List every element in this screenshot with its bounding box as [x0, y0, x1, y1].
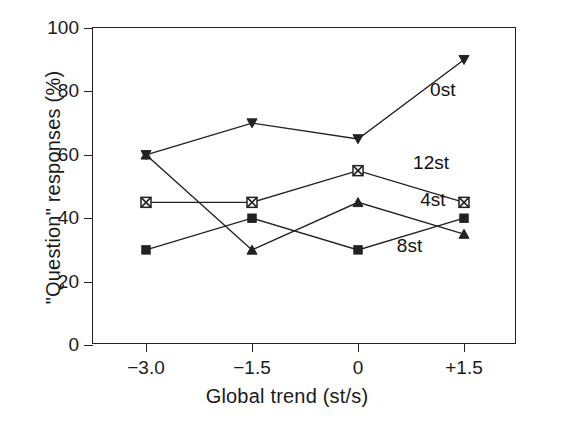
y-tick-mark	[84, 91, 93, 92]
plot-area: 020406080100 −3.0−1.50+1.5 0st12st4st8st	[92, 27, 516, 344]
x-tick-label: +1.5	[445, 357, 483, 379]
marker-square-crossed	[247, 197, 257, 207]
x-tick-label: −1.5	[233, 357, 271, 379]
y-tick-mark	[84, 28, 93, 29]
marker-square-filled	[248, 214, 256, 222]
y-tick-label: 40	[58, 207, 79, 229]
series-label-12st: 12st	[413, 152, 449, 174]
x-tick-label: 0	[353, 357, 364, 379]
marker-square-crossed	[141, 197, 151, 207]
y-tick-label: 60	[58, 144, 79, 166]
marker-square-crossed	[459, 197, 469, 207]
y-tick-mark	[84, 155, 93, 156]
series-label-8st: 8st	[397, 235, 422, 257]
marker-triangle-up-filled	[459, 229, 469, 238]
y-tick-label: 20	[58, 271, 79, 293]
series-0st	[141, 55, 469, 159]
x-axis-title: Global trend (st/s)	[0, 385, 574, 408]
marker-square-filled	[142, 246, 150, 254]
series-layer	[93, 28, 517, 345]
series-line	[146, 60, 464, 155]
y-tick-mark	[84, 282, 93, 283]
y-tick-label: 80	[58, 80, 79, 102]
marker-square-crossed	[353, 166, 363, 176]
series-label-4st: 4st	[420, 189, 445, 211]
marker-triangle-up-filled	[353, 198, 363, 207]
marker-square-filled	[460, 214, 468, 222]
marker-square-filled	[354, 246, 362, 254]
marker-triangle-down-filled	[353, 135, 363, 144]
series-label-0st: 0st	[430, 79, 455, 101]
y-tick-mark	[84, 218, 93, 219]
y-tick-mark	[84, 345, 93, 346]
y-tick-label: 100	[47, 17, 79, 39]
figure-canvas: "Question" responses (%) 020406080100 −3…	[0, 0, 574, 426]
y-axis-title: "Question" responses (%)	[42, 23, 65, 353]
x-tick-label: −3.0	[127, 357, 165, 379]
y-tick-label: 0	[68, 334, 79, 356]
